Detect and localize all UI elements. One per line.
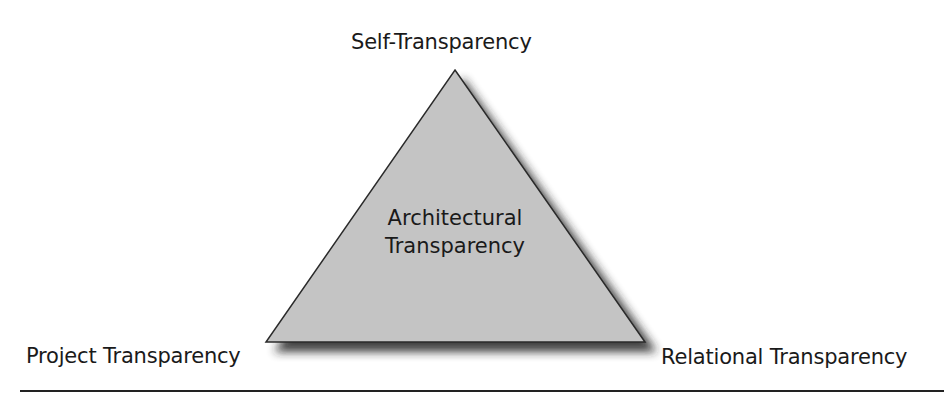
label-self-transparency: Self-Transparency — [351, 30, 532, 54]
horizontal-rule — [20, 390, 944, 392]
center-label-line2: Transparency — [355, 232, 555, 260]
center-label: Architectural Transparency — [355, 204, 555, 260]
center-label-line1: Architectural — [355, 204, 555, 232]
label-relational-transparency: Relational Transparency — [661, 345, 907, 369]
label-project-transparency: Project Transparency — [26, 344, 241, 368]
triangle-graphic — [0, 0, 951, 401]
